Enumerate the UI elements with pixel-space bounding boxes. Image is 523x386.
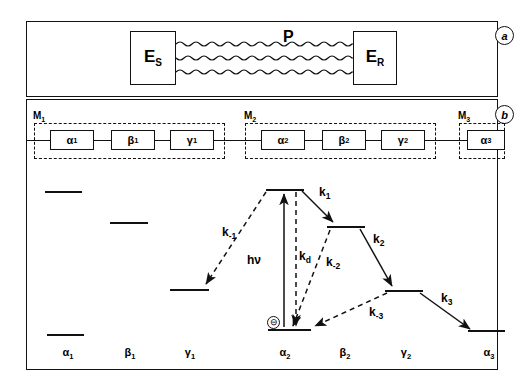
rate-label-k-2: k2 [373,232,384,248]
rate-label-h-nu: hν [247,253,261,269]
rate-label-k-1: k1 [319,185,330,201]
rate-label-k-minus-1: k-1 [222,225,236,241]
arrow-k-minus-2 [293,230,330,326]
state-label-alpha-2: α2 [273,346,297,361]
state-label-beta-2: β2 [333,346,357,361]
transition-arrows [0,0,523,386]
state-label-gamma-2: γ2 [394,346,418,361]
figure-root: a ES ER P b M1 α1 β1 γ1 M2 α2 [0,0,523,386]
state-label-alpha-3: α3 [477,346,501,361]
state-label-beta-1: β1 [118,346,142,361]
rate-label-k-d: kd [299,249,311,265]
state-label-gamma-1: γ1 [178,346,202,361]
rate-label-k-minus-2: k-2 [326,255,340,271]
rate-label-k-3: k3 [441,291,452,307]
state-label-alpha-1: α1 [56,346,80,361]
rate-label-k-minus-3: k-3 [369,305,383,321]
